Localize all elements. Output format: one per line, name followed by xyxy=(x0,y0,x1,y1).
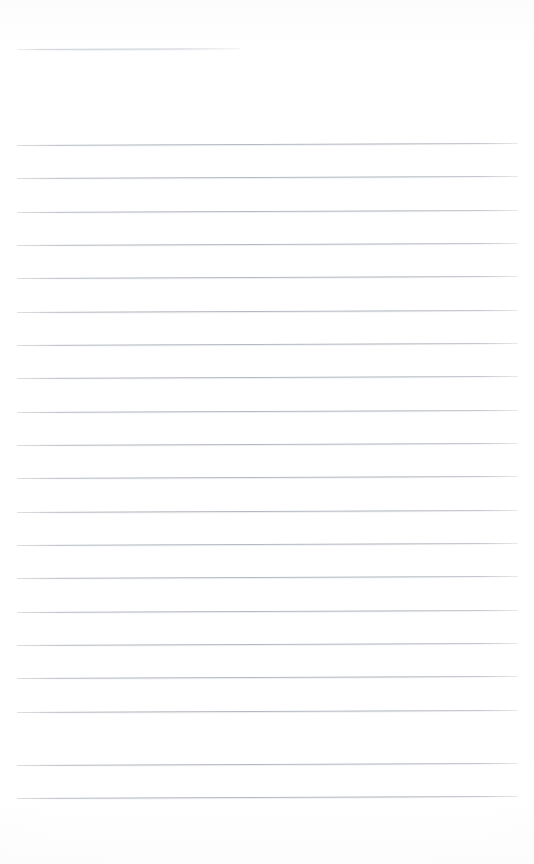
ruled-line xyxy=(17,576,518,579)
ruled-line xyxy=(17,343,518,346)
ruled-line xyxy=(17,543,518,546)
ruled-line xyxy=(17,376,518,379)
ruled-line xyxy=(17,443,518,446)
ruled-line xyxy=(17,796,518,799)
ruled-line xyxy=(17,610,518,613)
ruled-line xyxy=(17,243,518,246)
ruled-line xyxy=(17,210,518,213)
ruled-line xyxy=(17,176,518,179)
paper-surface xyxy=(0,0,534,864)
ruled-line xyxy=(17,676,518,679)
ruled-line xyxy=(17,710,518,713)
ruled-line xyxy=(17,510,518,513)
ruled-line xyxy=(17,410,518,413)
ruled-line xyxy=(17,476,518,479)
scan-noise-overlay xyxy=(0,0,534,864)
ruled-line xyxy=(17,310,518,313)
ruled-line xyxy=(17,276,518,279)
ruled-line xyxy=(17,763,518,766)
scanned-page xyxy=(0,0,534,864)
ruled-line xyxy=(17,643,518,646)
ruled-line xyxy=(17,48,240,50)
ruled-line xyxy=(17,143,518,146)
